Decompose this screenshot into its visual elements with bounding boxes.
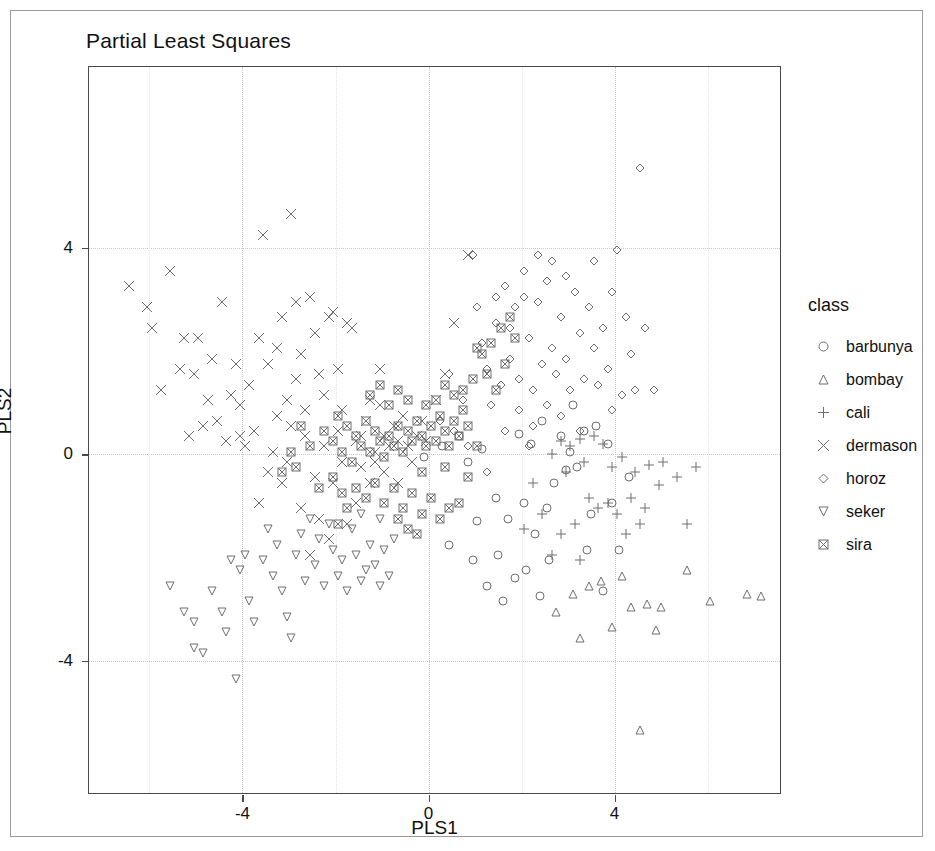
data-point-seker [277, 586, 287, 596]
data-point-seker [268, 571, 278, 581]
data-point-sira [347, 457, 357, 467]
data-point-cali [570, 519, 580, 529]
data-point-horoz [524, 333, 534, 343]
data-point-sira [435, 411, 445, 421]
data-point-dermason [375, 364, 385, 374]
legend-item-bombay[interactable]: bombay [808, 363, 933, 396]
data-point-dermason [300, 405, 310, 415]
data-point-sira [454, 498, 464, 508]
data-point-sira [365, 390, 375, 400]
data-point-horoz [635, 163, 645, 173]
data-point-horoz [542, 400, 552, 410]
data-point-horoz [500, 426, 510, 436]
data-point-dermason [277, 312, 287, 322]
data-point-cali [547, 449, 557, 459]
data-point-horoz [533, 250, 543, 260]
data-point-seker [231, 674, 241, 684]
data-point-horoz [528, 421, 538, 431]
data-point-cali [607, 462, 617, 472]
data-point-horoz [537, 359, 547, 369]
legend-item-dermason[interactable]: dermason [808, 429, 933, 462]
data-point-cali [644, 460, 654, 470]
data-point-cali [575, 555, 585, 565]
data-point-horoz [561, 354, 571, 364]
data-point-horoz [570, 287, 580, 297]
data-point-barbunya [614, 545, 624, 555]
data-point-seker [365, 540, 375, 550]
data-point-seker [221, 627, 231, 637]
data-point-dermason [240, 441, 250, 451]
data-point-sira [421, 400, 431, 410]
data-point-seker [319, 581, 329, 591]
data-point-sira [426, 421, 436, 431]
data-point-seker [379, 545, 389, 555]
data-point-sira [389, 483, 399, 493]
data-point-dermason [319, 390, 329, 400]
data-point-seker [286, 633, 296, 643]
data-point-bombay [651, 625, 661, 635]
legend-item-horoz[interactable]: horoz [808, 462, 933, 495]
data-point-cali [603, 498, 613, 508]
data-point-seker [370, 560, 380, 570]
data-point-sira [286, 447, 296, 457]
data-point-seker [333, 571, 343, 581]
data-point-seker [305, 514, 315, 524]
data-point-sira [351, 483, 361, 493]
data-point-sira [379, 498, 389, 508]
data-point-dermason [175, 364, 185, 374]
data-point-dermason [142, 302, 152, 312]
data-point-dermason [291, 374, 301, 384]
data-point-barbunya [537, 416, 547, 426]
data-point-seker [291, 550, 301, 560]
data-point-cali [640, 503, 650, 513]
x-tick [615, 795, 616, 802]
data-point-seker [282, 612, 292, 622]
data-point-sira [440, 380, 450, 390]
data-point-sira [342, 503, 352, 513]
data-point-sira [398, 447, 408, 457]
data-point-dermason [165, 266, 175, 276]
data-point-dermason [277, 478, 287, 488]
data-point-sira [435, 514, 445, 524]
data-point-sira [500, 359, 510, 369]
data-point-horoz [547, 256, 557, 266]
data-point-seker [272, 540, 282, 550]
data-point-barbunya [514, 429, 524, 439]
data-point-barbunya [535, 591, 545, 601]
legend-item-seker[interactable]: seker [808, 495, 933, 528]
legend-item-barbunya[interactable]: barbunya [808, 330, 933, 363]
data-point-sira [486, 338, 496, 348]
data-point-horoz [505, 323, 515, 333]
data-point-dermason [235, 400, 245, 410]
data-point-sira [412, 416, 422, 426]
data-point-barbunya [491, 493, 501, 503]
data-point-horoz [524, 441, 534, 451]
data-point-horoz [472, 302, 482, 312]
data-point-sira [370, 426, 380, 436]
legend-item-cali[interactable]: cali [808, 396, 933, 429]
data-point-barbunya [493, 550, 503, 560]
data-point-sira [449, 390, 459, 400]
data-point-sira [431, 436, 441, 446]
data-point-sira [337, 447, 347, 457]
data-point-dermason [193, 333, 203, 343]
data-point-dermason [379, 467, 389, 477]
data-point-dermason [305, 550, 315, 560]
data-point-seker [235, 565, 245, 575]
data-point-cali [519, 524, 529, 534]
legend-item-sira[interactable]: sira [808, 528, 933, 561]
data-point-sira [384, 400, 394, 410]
data-point-sira [412, 529, 422, 539]
data-point-seker [328, 545, 338, 555]
data-point-dermason [184, 431, 194, 441]
data-point-cali [621, 529, 631, 539]
data-point-sira [403, 395, 413, 405]
data-point-dermason [310, 472, 320, 482]
data-point-seker [384, 571, 394, 581]
data-point-sira [444, 441, 454, 451]
data-point-dermason [398, 411, 408, 421]
data-point-sira [510, 333, 520, 343]
data-point-cali [672, 472, 682, 482]
data-point-seker [240, 550, 250, 560]
triangle-up-icon [808, 374, 838, 385]
